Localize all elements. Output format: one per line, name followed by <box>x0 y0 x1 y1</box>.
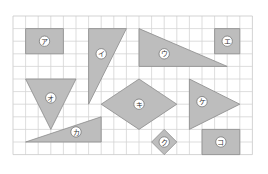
shape-label: イ <box>98 50 105 58</box>
shape-label: コ <box>217 139 224 147</box>
shapes-grid-diagram: アイウエオカキクケコ <box>0 0 268 174</box>
shape-label: カ <box>73 129 80 137</box>
shapes: アイウエオカキクケコ <box>26 29 240 155</box>
shape-ku: ク <box>152 129 177 154</box>
shape-label: ア <box>41 38 48 46</box>
shape-label: ク <box>161 139 168 147</box>
shape-label: ウ <box>161 50 168 58</box>
shape-ko: コ <box>202 129 240 154</box>
shape-label: キ <box>136 101 143 109</box>
right-triangle-polygon <box>139 29 227 67</box>
shape-e: エ <box>215 29 240 54</box>
shape-a: ア <box>26 29 64 54</box>
shape-ki: キ <box>101 79 177 129</box>
shape-label: オ <box>47 95 54 103</box>
shape-label: ケ <box>199 98 206 106</box>
shape-label: エ <box>224 38 231 46</box>
shape-u: ウ <box>139 29 227 67</box>
